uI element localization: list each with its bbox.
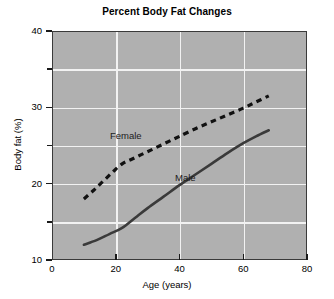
y-axis-minor-tick <box>47 221 52 223</box>
y-axis-tick <box>46 30 52 32</box>
y-axis-tick-label: 10 <box>0 255 42 265</box>
x-axis-tick-label: 40 <box>165 264 195 274</box>
y-axis-minor-tick <box>47 145 52 147</box>
gridline-vertical <box>116 32 118 259</box>
x-axis-tick <box>179 254 181 260</box>
chart-figure: Percent Body Fat Changes Body fat (%) Ag… <box>0 0 334 299</box>
x-axis-tick <box>243 254 245 260</box>
y-axis-tick <box>46 183 52 185</box>
x-axis-tick <box>115 254 117 260</box>
female-series-label: Female <box>110 130 142 141</box>
y-axis-tick <box>46 259 52 261</box>
male-series-label: Male <box>175 172 196 183</box>
x-axis-tick <box>306 254 308 260</box>
y-axis-tick-label: 40 <box>0 26 42 36</box>
y-axis-tick <box>46 107 52 109</box>
y-axis-minor-tick <box>47 68 52 70</box>
y-axis-tick-label: 20 <box>0 179 42 189</box>
x-axis-title: Age (years) <box>0 279 334 290</box>
chart-title: Percent Body Fat Changes <box>0 6 334 17</box>
gridline-vertical <box>244 32 246 259</box>
x-axis-tick-label: 60 <box>228 264 258 274</box>
x-axis-tick-label: 80 <box>292 264 322 274</box>
plot-area <box>52 31 307 260</box>
y-axis-tick-label: 30 <box>0 102 42 112</box>
x-axis-tick-label: 20 <box>101 264 131 274</box>
x-axis-tick-label: 0 <box>37 264 67 274</box>
gridline-vertical <box>180 32 182 259</box>
